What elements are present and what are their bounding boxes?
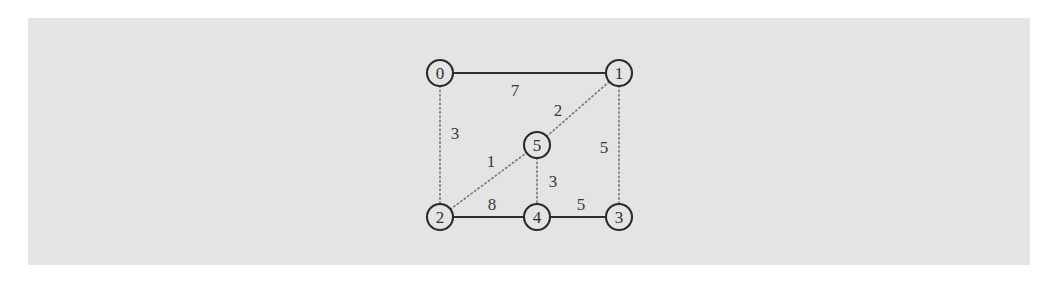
edge-weight-label-5-4: 3 (549, 172, 558, 191)
graph-node-1: 1 (606, 60, 632, 86)
node-label-1: 1 (615, 64, 624, 83)
graph-node-0: 0 (427, 60, 453, 86)
node-label-5: 5 (533, 136, 542, 155)
graph-node-2: 2 (427, 204, 453, 230)
edge-weight-label-5-1: 2 (554, 101, 563, 120)
node-label-3: 3 (615, 208, 624, 227)
edge-weight-label-1-3: 5 (600, 138, 609, 157)
edge-weight-label-4-3: 5 (577, 195, 586, 214)
edge-weight-label-2-5: 1 (487, 152, 496, 171)
graph-diagram: 73125385 012345 (0, 0, 1052, 285)
edge-weight-label-0-2: 3 (451, 124, 460, 143)
node-label-4: 4 (533, 208, 542, 227)
edge-weight-label-0-1: 7 (511, 81, 520, 100)
graph-node-3: 3 (606, 204, 632, 230)
node-label-2: 2 (436, 208, 445, 227)
graph-node-4: 4 (524, 204, 550, 230)
edge-weight-label-2-4: 8 (488, 195, 497, 214)
node-label-0: 0 (436, 64, 445, 83)
graph-node-5: 5 (524, 132, 550, 158)
figure-canvas: 73125385 012345 (0, 0, 1052, 285)
